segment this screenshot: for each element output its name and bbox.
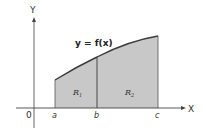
point-label-a: a [52, 111, 57, 120]
x-axis-arrow-icon [181, 106, 186, 110]
y-axis-label: Y [29, 5, 36, 15]
y-axis-arrow-icon [32, 17, 36, 22]
area-under-curve-diagram: Y X 0 a b c y = f(x) R1 R2 [0, 0, 206, 134]
x-axis-label: X [188, 104, 194, 114]
equation-label: y = f(x) [75, 38, 113, 48]
point-label-b: b [94, 111, 99, 120]
origin-label: 0 [26, 110, 32, 120]
region-r1-shading [55, 57, 97, 108]
point-label-c: c [155, 111, 160, 120]
